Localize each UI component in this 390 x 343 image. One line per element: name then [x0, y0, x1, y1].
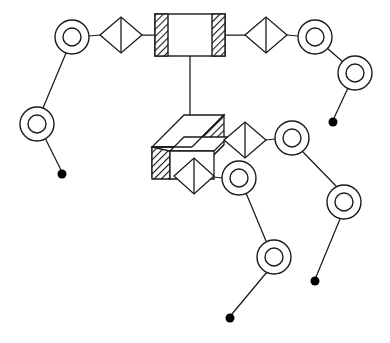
schematic-svg [0, 0, 390, 343]
slab-front-left-end-hatched [152, 147, 170, 179]
double-ring-node [20, 107, 54, 141]
terminal-dot [58, 170, 67, 179]
terminal-dot [329, 118, 338, 127]
ring-inner [335, 193, 353, 211]
diamond-joint-symbol [100, 17, 142, 53]
ring-inner [346, 64, 364, 82]
link-line [246, 193, 266, 241]
hatch-band-right [212, 14, 225, 56]
ring-inner [283, 129, 301, 147]
hatched-rectangle-block [155, 14, 225, 56]
diamond-joint-symbol [245, 17, 287, 53]
ring-inner [28, 115, 46, 133]
link-line [214, 177, 222, 178]
link-line [89, 35, 100, 36]
terminal-dot [311, 277, 320, 286]
double-ring-node [222, 161, 256, 195]
double-ring-node [338, 56, 372, 90]
link-line [303, 152, 336, 186]
double-ring-node [55, 20, 89, 54]
terminal-dot [226, 314, 235, 323]
double-ring-node [298, 20, 332, 54]
ring-inner [230, 169, 248, 187]
link-line [334, 88, 348, 118]
ring-inner [265, 248, 283, 266]
double-ring-node [257, 240, 291, 274]
diamond-joint-symbol [224, 122, 266, 158]
diagram-canvas: Kinematic linkage schematic [0, 0, 390, 343]
link-line [327, 48, 343, 62]
link-line [43, 53, 66, 108]
ring-inner [306, 28, 324, 46]
link-line [266, 139, 275, 140]
link-line [45, 138, 61, 170]
link-line [316, 219, 340, 277]
double-ring-node [327, 185, 361, 219]
ring-inner [63, 28, 81, 46]
link-line [287, 35, 298, 36]
hatch-band-left [155, 14, 168, 56]
link-line [232, 272, 267, 314]
double-ring-node [275, 121, 309, 155]
